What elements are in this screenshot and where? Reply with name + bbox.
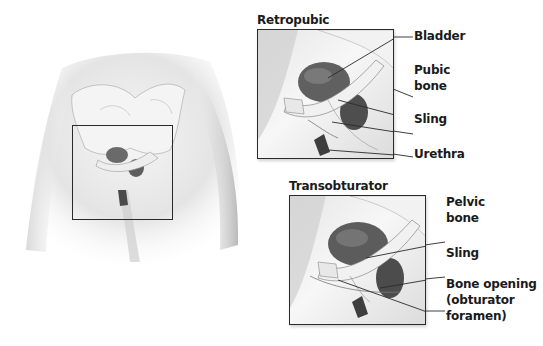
label-bone-opening-line3: foramen) [446, 308, 537, 324]
label-pubic-bone-line2: bone [414, 78, 450, 94]
transobturator-inset [289, 195, 426, 325]
label-sling-retropubic: Sling [414, 111, 447, 127]
label-bone-opening-line1: Bone opening [446, 276, 537, 292]
retropubic-title: Retropubic [257, 13, 329, 27]
label-pelvic-bone-line2: bone [446, 210, 485, 226]
region-highlight-box [72, 125, 173, 220]
retropubic-inset [257, 29, 394, 159]
transobturator-title: Transobturator [289, 179, 388, 193]
transobturator-anatomy-drawing [290, 196, 426, 325]
label-pelvic-bone-line1: Pelvic [446, 194, 485, 210]
retropubic-leader-lines [393, 29, 415, 164]
label-urethra: Urethra [414, 146, 465, 162]
label-sling-transobturator: Sling [446, 245, 479, 261]
label-bone-opening-line2: (obturator [446, 292, 537, 308]
label-bladder: Bladder [414, 28, 465, 44]
retropubic-anatomy-drawing [258, 30, 394, 159]
label-pubic-bone: Pubic bone [414, 62, 450, 94]
label-pelvic-bone: Pelvic bone [446, 194, 485, 226]
label-pubic-bone-line1: Pubic [414, 62, 450, 78]
label-bone-opening: Bone opening (obturator foramen) [446, 276, 537, 324]
transobturator-leader-lines [425, 195, 447, 325]
